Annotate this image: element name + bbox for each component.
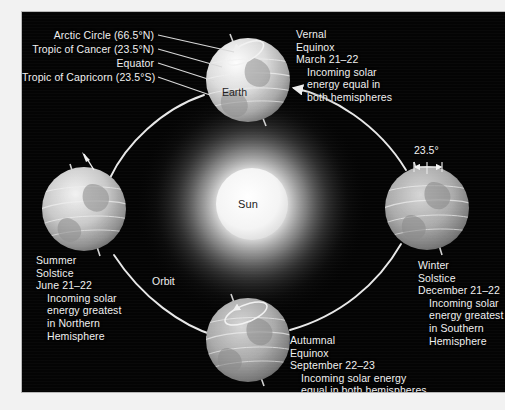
block-winter-solstice: Winter Solstice December 21–22 Incoming … bbox=[418, 259, 503, 347]
summer-date: June 21–22 bbox=[36, 279, 121, 292]
earth-winter-solstice bbox=[381, 162, 481, 255]
earth-summer-solstice bbox=[38, 152, 138, 256]
vernal-detail-2: energy equal in bbox=[296, 78, 392, 91]
label-equator: Equator bbox=[22, 57, 154, 70]
summer-detail-1: Incoming solar bbox=[36, 292, 121, 305]
label-tropic-of-capricorn: Tropic of Capricorn (23.5°S) bbox=[22, 71, 154, 84]
autumnal-detail-1: Incoming solar energy bbox=[290, 372, 427, 385]
winter-name2: Solstice bbox=[418, 272, 503, 285]
vernal-detail-3: both hemispheres bbox=[296, 91, 392, 104]
vernal-date: March 21–22 bbox=[296, 53, 392, 66]
autumnal-name2: Equinox bbox=[290, 347, 427, 360]
summer-name: Summer bbox=[36, 254, 121, 267]
autumnal-date: September 22–23 bbox=[290, 359, 427, 372]
vernal-detail-1: Incoming solar bbox=[296, 66, 392, 79]
diagram-panel: Arctic Circle (66.5°N) Tropic of Cancer … bbox=[22, 12, 505, 392]
winter-detail-1: Incoming solar bbox=[418, 297, 503, 310]
block-vernal-equinox: Vernal Equinox March 21–22 Incoming sola… bbox=[296, 28, 392, 104]
block-summer-solstice: Summer Solstice June 21–22 Incoming sola… bbox=[36, 254, 121, 342]
winter-date: December 21–22 bbox=[418, 284, 503, 297]
vernal-name2: Equinox bbox=[296, 41, 392, 54]
winter-detail-4: Hemisphere bbox=[418, 335, 503, 348]
label-tropic-of-cancer: Tropic of Cancer (23.5°N) bbox=[22, 43, 154, 56]
summer-detail-3: in Northern bbox=[36, 317, 121, 330]
label-arctic-circle: Arctic Circle (66.5°N) bbox=[22, 29, 154, 42]
summer-name2: Solstice bbox=[36, 267, 121, 280]
autumnal-name: Autumnal bbox=[290, 334, 427, 347]
block-autumnal-equinox: Autumnal Equinox September 22–23 Incomin… bbox=[290, 334, 427, 392]
winter-name: Winter bbox=[418, 259, 503, 272]
orbit-label: Orbit bbox=[152, 275, 175, 287]
summer-detail-4: Hemisphere bbox=[36, 330, 121, 343]
winter-detail-2: energy greatest bbox=[418, 309, 503, 322]
autumnal-detail-2: equal in both hemispheres bbox=[290, 384, 427, 392]
summer-detail-2: energy greatest bbox=[36, 304, 121, 317]
sun-label: Sun bbox=[238, 198, 258, 210]
winter-detail-3: in Southern bbox=[418, 322, 503, 335]
figure-canvas: Arctic Circle (66.5°N) Tropic of Cancer … bbox=[0, 0, 505, 410]
earth-body-label: Earth bbox=[222, 86, 247, 98]
vernal-name: Vernal bbox=[296, 28, 392, 41]
axial-tilt-label: 23.5° bbox=[414, 144, 439, 156]
